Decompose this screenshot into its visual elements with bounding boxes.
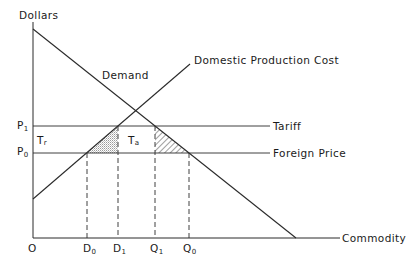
tariff-diagram: Dollars Commodity O Demand Domestic Prod… bbox=[0, 0, 413, 264]
q1-label: Q1 bbox=[150, 242, 164, 256]
foreign-price-label: Foreign Price bbox=[273, 147, 346, 159]
demand-label: Demand bbox=[102, 69, 149, 81]
origin-label: O bbox=[28, 242, 37, 254]
d0-label: D0 bbox=[83, 242, 96, 256]
domestic-production-cost-curve bbox=[33, 64, 190, 199]
p0-label: P0 bbox=[17, 145, 29, 159]
tr-region-label: Tr bbox=[36, 134, 47, 147]
q0-label: Q0 bbox=[183, 242, 197, 256]
diagram-canvas: Dollars Commodity O Demand Domestic Prod… bbox=[0, 0, 413, 264]
p1-label: P1 bbox=[17, 119, 29, 133]
x-axis-label: Commodity bbox=[342, 232, 406, 244]
tariff-label: Tariff bbox=[272, 120, 301, 132]
d1-label: D1 bbox=[113, 242, 126, 256]
supply-label: Domestic Production Cost bbox=[194, 54, 339, 66]
y-axis-label: Dollars bbox=[19, 9, 58, 21]
ta-region-label: Ta bbox=[127, 134, 140, 147]
